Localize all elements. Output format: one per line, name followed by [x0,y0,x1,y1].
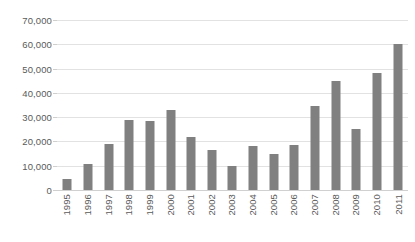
x-tick-label: 2006 [289,194,300,216]
x-tick-slot: 1996 [78,192,99,238]
bar [331,81,340,190]
x-tick-label: 2002 [206,194,217,216]
bar [373,73,382,190]
bar [249,146,258,190]
bar-slot [119,20,140,190]
x-tick-label: 2001 [185,194,196,216]
bar-slot [222,20,243,190]
plot-area [57,20,408,190]
x-tick-slot: 2001 [181,192,202,238]
x-tick-label: 2000 [165,194,176,216]
x-tick-slot: 2000 [160,192,181,238]
y-axis-tick-labels: 010,00020,00030,00040,00050,00060,00070,… [0,20,52,190]
bar [166,110,175,190]
bar-slot [57,20,78,190]
x-tick-slot: 2003 [222,192,243,238]
y-tick-label: 50,000 [22,63,52,74]
x-tick-label: 2005 [268,194,279,216]
y-tick-label: 70,000 [22,15,52,26]
bar [83,164,92,190]
bar [145,121,154,190]
x-tick-label: 1996 [82,194,93,216]
bar-slot [140,20,161,190]
bar-slot [181,20,202,190]
bar-slot [202,20,223,190]
bar-slot [78,20,99,190]
y-tick-label: 10,000 [22,160,52,171]
bar-slot [346,20,367,190]
bar [290,145,299,190]
bar-slot [367,20,388,190]
bar [187,137,196,190]
bar-slot [387,20,408,190]
bar [393,44,402,190]
bar-slot [325,20,346,190]
x-tick-label: 2003 [227,194,238,216]
bar [125,120,134,190]
x-tick-slot: 2005 [263,192,284,238]
bar-chart: 010,00020,00030,00040,00050,00060,00070,… [0,0,415,242]
x-tick-slot: 2010 [367,192,388,238]
x-tick-slot: 1997 [98,192,119,238]
bar [228,166,237,190]
x-tick-slot: 1999 [140,192,161,238]
x-tick-label: 2010 [371,194,382,216]
x-tick-label: 1998 [123,194,134,216]
x-tick-label: 2004 [247,194,258,216]
x-tick-label: 2008 [330,194,341,216]
y-tick-label: 20,000 [22,136,52,147]
gridline [57,190,408,191]
bar [207,150,216,190]
x-tick-slot: 2011 [387,192,408,238]
bar-slot [305,20,326,190]
bar [63,179,72,190]
x-tick-label: 2009 [351,194,362,216]
x-axis-tick-labels: 1995199619971998199920002001200220032004… [57,192,408,238]
y-tick-label: 40,000 [22,87,52,98]
bar [352,129,361,190]
y-tick-label: 30,000 [22,112,52,123]
x-tick-slot: 2006 [284,192,305,238]
y-tick-label: 0 [47,185,52,196]
x-tick-label: 1995 [62,194,73,216]
x-tick-slot: 2007 [305,192,326,238]
x-tick-slot: 2002 [202,192,223,238]
bar [104,144,113,190]
bar-series [57,20,408,190]
x-tick-label: 2007 [309,194,320,216]
bar-slot [284,20,305,190]
x-tick-slot: 1998 [119,192,140,238]
bar [269,154,278,190]
x-tick-label: 1999 [144,194,155,216]
bar-slot [243,20,264,190]
bar [311,106,320,190]
x-tick-slot: 2004 [243,192,264,238]
x-tick-label: 2011 [392,194,403,215]
x-tick-slot: 2008 [325,192,346,238]
bar-slot [98,20,119,190]
x-tick-slot: 2009 [346,192,367,238]
x-tick-label: 1997 [103,194,114,216]
bar-slot [263,20,284,190]
x-tick-slot: 1995 [57,192,78,238]
y-tick-label: 60,000 [22,39,52,50]
bar-slot [160,20,181,190]
